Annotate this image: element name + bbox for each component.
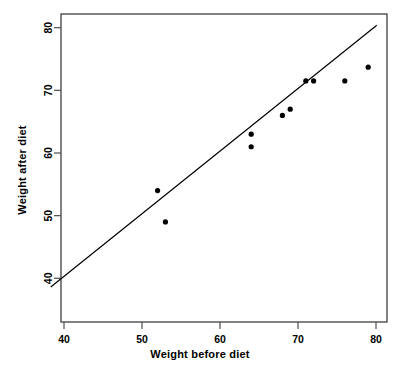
y-axis-ticks: 4050607080 <box>42 22 61 284</box>
data-point <box>280 113 285 118</box>
scatter-plot-figure: 4050607080 4050607080 Weight after diet … <box>0 0 400 381</box>
data-point <box>303 78 308 83</box>
data-point <box>311 78 316 83</box>
y-tick-label: 40 <box>42 272 54 284</box>
x-tick-label: 50 <box>136 333 148 345</box>
data-point <box>288 107 293 112</box>
x-axis-title: Weight before diet <box>0 348 400 360</box>
x-tick-label: 40 <box>58 333 70 345</box>
data-point <box>163 219 168 224</box>
x-tick-label: 80 <box>370 333 382 345</box>
data-point <box>366 65 371 70</box>
x-axis-ticks: 4050607080 <box>58 322 382 345</box>
y-tick-label: 60 <box>42 147 54 159</box>
y-tick-label: 80 <box>42 22 54 34</box>
data-point <box>249 132 254 137</box>
data-point <box>155 188 160 193</box>
y-tick-label: 50 <box>42 210 54 222</box>
data-point <box>342 78 347 83</box>
x-tick-label: 60 <box>214 333 226 345</box>
y-tick-label: 70 <box>42 84 54 96</box>
x-tick-label: 70 <box>292 333 304 345</box>
plot-canvas: 4050607080 4050607080 <box>0 0 400 381</box>
plot-frame <box>61 14 387 322</box>
data-point <box>249 144 254 149</box>
y-axis-title: Weight after diet <box>16 90 28 250</box>
